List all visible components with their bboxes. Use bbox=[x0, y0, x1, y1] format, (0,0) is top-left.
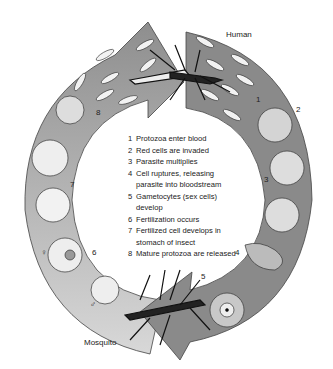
step-4: 4Cell ruptures, releasing parasite into … bbox=[128, 168, 238, 191]
diagram-number-3: 3 bbox=[264, 175, 268, 184]
steps-list: 1Protozoa enter blood 2Red cells are inv… bbox=[128, 133, 238, 260]
diagram-number-7: 7 bbox=[70, 180, 74, 189]
male-symbol: ♂ bbox=[90, 300, 96, 309]
step-7: 7Fertilized cell develops in stomach of … bbox=[128, 225, 238, 248]
step-2: 2Red cells are invaded bbox=[128, 145, 238, 157]
diagram-number-8: 8 bbox=[96, 108, 100, 117]
step-1: 1Protozoa enter blood bbox=[128, 133, 238, 145]
mosquito-label: Mosquito bbox=[84, 338, 116, 347]
step-6: 6Fertilization occurs bbox=[128, 214, 238, 226]
step-8: 8Mature protozoa are released bbox=[128, 248, 238, 260]
diagram-number-6: 6 bbox=[92, 248, 96, 257]
diagram-number-1: 1 bbox=[256, 95, 260, 104]
female-symbol: ♀ bbox=[41, 248, 47, 257]
diagram-number-2: 2 bbox=[296, 105, 300, 114]
human-label: Human bbox=[226, 30, 252, 39]
diagram-number-5: 5 bbox=[201, 272, 205, 281]
step-5: 5Gametocytes (sex cells) develop bbox=[128, 191, 238, 214]
step-3: 3Parasite multiplies bbox=[128, 156, 238, 168]
